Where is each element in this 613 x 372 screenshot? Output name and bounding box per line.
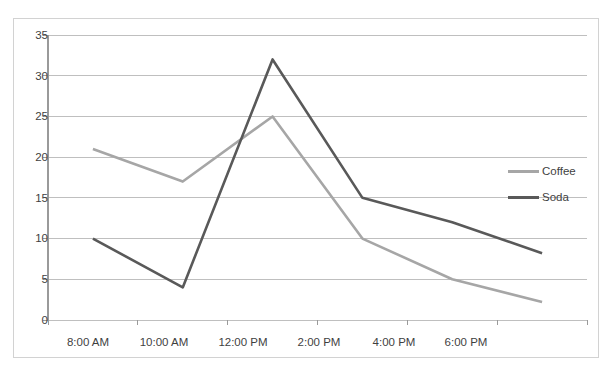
y-tick-label-25: 25 bbox=[14, 110, 48, 122]
legend-item-soda: Soda bbox=[508, 184, 606, 210]
y-tick-label-5: 5 bbox=[14, 273, 48, 285]
x-tick-label-1000am: 10:00 AM bbox=[119, 336, 209, 348]
legend-label-soda: Soda bbox=[542, 191, 569, 203]
legend-swatch-coffee bbox=[508, 170, 539, 173]
line-chart: 35 30 25 20 15 10 5 0 8:00 AM 10:00 AM 1… bbox=[0, 0, 613, 372]
legend-label-coffee: Coffee bbox=[542, 165, 576, 177]
y-tick-label-10: 10 bbox=[14, 232, 48, 244]
legend-item-coffee: Coffee bbox=[508, 158, 606, 184]
y-tick-label-35: 35 bbox=[14, 29, 48, 41]
chart-legend: Coffee Soda bbox=[508, 158, 606, 210]
legend-swatch-soda bbox=[508, 196, 539, 199]
y-tick-label-15: 15 bbox=[14, 192, 48, 204]
x-tick-label-0600pm: 6:00 PM bbox=[421, 336, 511, 348]
y-tick-label-20: 20 bbox=[14, 151, 48, 163]
y-tick-label-30: 30 bbox=[14, 70, 48, 82]
y-tick-label-0: 0 bbox=[14, 314, 48, 326]
